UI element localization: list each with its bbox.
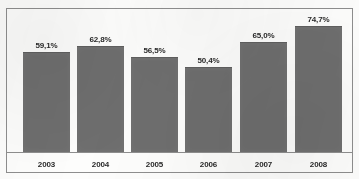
chart-screenshot: 59,1% 2003 62,8% 2004 56,5% 2005 50,4% 2…	[0, 0, 359, 179]
x-axis-baseline	[7, 152, 352, 153]
bar-value-label: 65,0%	[232, 31, 295, 40]
bar[interactable]	[23, 52, 70, 152]
bar[interactable]	[240, 42, 287, 152]
bar-category-label: 2008	[287, 160, 350, 169]
bar-value-label: 56,5%	[123, 46, 186, 55]
bar-chart-plot-area: 59,1% 2003 62,8% 2004 56,5% 2005 50,4% 2…	[0, 0, 359, 179]
bar[interactable]	[295, 26, 342, 152]
bar-category-label: 2006	[177, 160, 240, 169]
bar[interactable]	[77, 46, 124, 152]
bar[interactable]	[185, 67, 232, 152]
bar-value-label: 62,8%	[69, 35, 132, 44]
bar-value-label: 74,7%	[287, 15, 350, 24]
bar-value-label: 50,4%	[177, 56, 240, 65]
bar-category-label: 2007	[232, 160, 295, 169]
bar[interactable]	[131, 57, 178, 152]
